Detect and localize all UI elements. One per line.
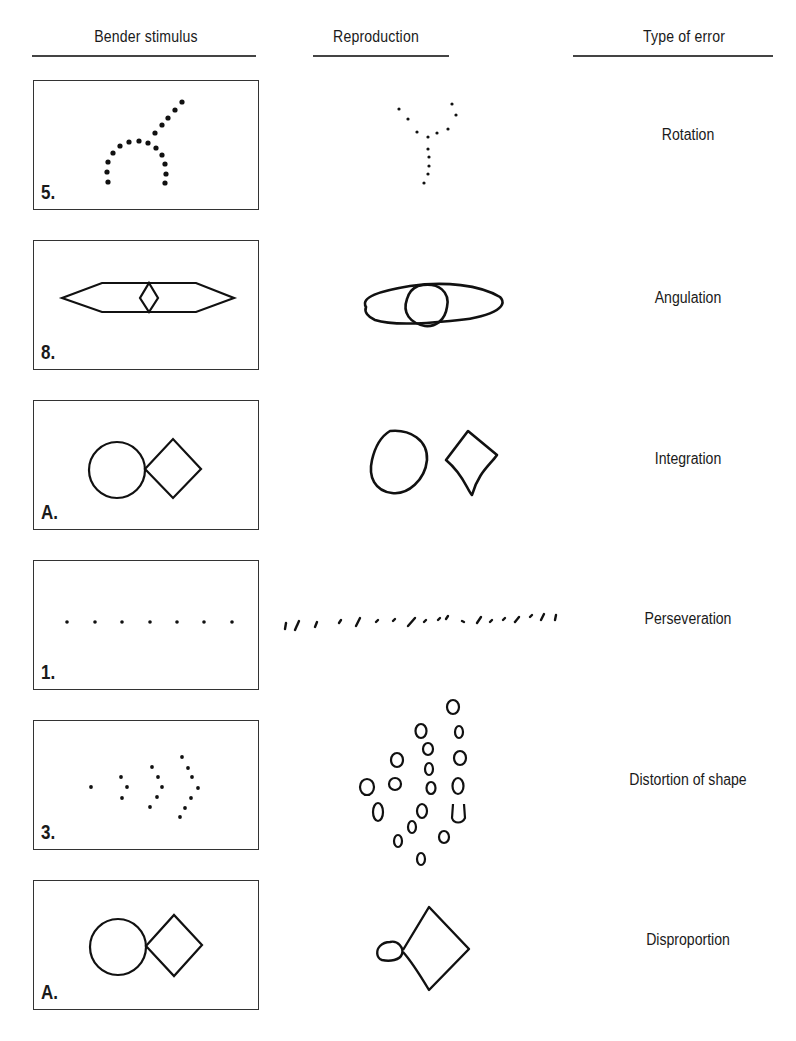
header-rule-error (573, 55, 773, 57)
figure-number: A. (41, 981, 58, 1004)
figure-number: 5. (41, 181, 55, 204)
header-type-of-error: Type of error (596, 28, 772, 46)
header-bender-stimulus: Bender stimulus (47, 28, 246, 46)
hexagon-diamond-figure (34, 241, 260, 371)
circle-diamond-figure (34, 401, 260, 531)
stimulus-box-a-disproportion: A. (33, 880, 259, 1010)
stimulus-box-3: 3. (33, 720, 259, 850)
reproduction-rotation (380, 85, 480, 195)
figure-number: A. (41, 501, 58, 524)
figure-number: 1. (41, 661, 55, 684)
error-label-integration: Integration (593, 450, 783, 468)
error-label-rotation: Rotation (593, 126, 783, 144)
header-reproduction: Reproduction (314, 28, 437, 46)
error-label-distortion-of-shape: Distortion of shape (593, 771, 783, 789)
header-rule-stimulus (32, 55, 256, 57)
row-of-dots-figure (34, 561, 260, 691)
error-label-disproportion: Disproportion (593, 931, 783, 949)
figure-number: 3. (41, 821, 55, 844)
stimulus-box-a-integration: A. (33, 400, 259, 530)
error-label-angulation: Angulation (593, 289, 783, 307)
reproduction-disproportion (360, 890, 480, 1000)
reproduction-perseveration (280, 605, 570, 645)
dotted-arc-figure (34, 81, 260, 211)
error-label-perseveration: Perseveration (593, 610, 783, 628)
reproduction-integration (350, 415, 520, 505)
reproduction-angulation (350, 255, 520, 335)
header-rule-reproduction (313, 55, 449, 57)
stimulus-box-8: 8. (33, 240, 259, 370)
figure-number: 8. (41, 341, 55, 364)
stimulus-box-1: 1. (33, 560, 259, 690)
circle-diamond-figure (34, 881, 260, 1011)
dot-arrow-figure (34, 721, 260, 851)
stimulus-box-5: 5. (33, 80, 259, 210)
reproduction-distortion (350, 690, 490, 870)
